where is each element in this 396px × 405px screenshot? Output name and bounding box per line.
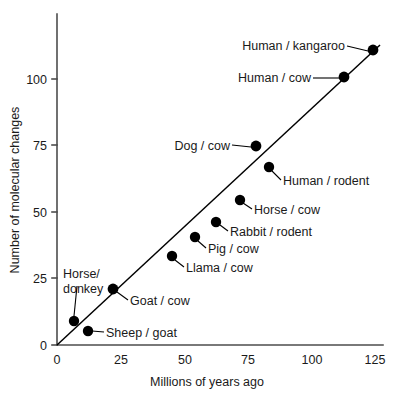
point-label-human-cow: Human / cow [238, 71, 312, 85]
leader-dog-cow [232, 145, 251, 147]
point-label-llama-cow: Llama / cow [186, 261, 254, 275]
data-point-horse-cow[interactable] [235, 195, 245, 205]
point-label-dog-cow: Dog / cow [174, 139, 231, 153]
data-point-human-cow[interactable] [339, 72, 350, 83]
data-point-human-kangaroo[interactable] [368, 45, 379, 56]
x-axis-title: Millions of years ago [150, 375, 264, 389]
y-axis-title: Number of molecular changes [8, 107, 22, 274]
leader-goat-cow [117, 292, 128, 300]
y-tick-label-25: 25 [33, 272, 47, 286]
x-tick-label-125: 125 [365, 353, 386, 367]
y-tick-label-100: 100 [26, 73, 47, 87]
x-tick-label-75: 75 [241, 353, 255, 367]
data-point-goat-cow[interactable] [108, 284, 119, 295]
leader-llama-cow [175, 260, 184, 267]
point-label-sheep-goat: Sheep / goat [106, 326, 177, 340]
trend-line [57, 45, 380, 345]
data-point-horse-donkey[interactable] [69, 316, 79, 326]
point-label-rabbit-rodent: Rabbit / rodent [230, 225, 313, 239]
leader-pig-cow [198, 241, 206, 248]
scatter-chart-figure: 0 25 50 75 100 125 0 25 50 75 100 Millio… [0, 0, 396, 405]
leader-horse-cow [243, 203, 252, 209]
data-point-sheep-goat[interactable] [83, 326, 93, 336]
y-tick-label-50: 50 [33, 206, 47, 220]
point-label-human-kangaroo: Human / kangaroo [242, 39, 345, 53]
leader-human-rodent [272, 171, 281, 180]
y-tick-label-0: 0 [40, 339, 47, 353]
data-point-dog-cow[interactable] [251, 141, 262, 152]
leader-sheep-goat [92, 331, 104, 332]
point-label-goat-cow: Goat / cow [130, 294, 191, 308]
leader-rabbit-rodent [220, 225, 228, 231]
x-tick-label-100: 100 [302, 353, 323, 367]
point-label-human-rodent: Human / rodent [283, 174, 370, 188]
point-label-horse-cow: Horse / cow [254, 203, 321, 217]
x-tick-label-0: 0 [54, 353, 61, 367]
point-label-horse-donkey-line2: donkey [63, 282, 104, 296]
data-point-pig-cow[interactable] [190, 232, 200, 242]
data-point-human-rodent[interactable] [264, 162, 274, 172]
leader-human-kangaroo [347, 46, 368, 51]
point-label-pig-cow: Pig / cow [208, 242, 260, 256]
y-tick-label-75: 75 [33, 139, 47, 153]
x-tick-label-25: 25 [114, 353, 128, 367]
data-point-rabbit-rodent[interactable] [211, 217, 221, 227]
point-label-horse-donkey-line1: Horse/ [63, 267, 100, 281]
x-tick-label-50: 50 [178, 353, 192, 367]
data-point-llama-cow[interactable] [167, 251, 177, 261]
plot-area: 0 25 50 75 100 125 0 25 50 75 100 Millio… [0, 0, 396, 405]
